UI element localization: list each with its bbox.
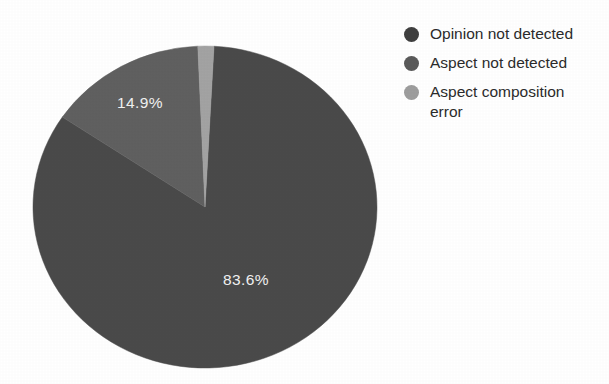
legend-item-opinion-not-detected[interactable]: Opinion not detected — [404, 24, 604, 44]
pie-slices-group — [33, 46, 377, 368]
pie-plot-area: 83.6%14.9% — [0, 0, 400, 384]
legend-item-label: Aspect composition error — [430, 82, 590, 122]
pie-slice-value-label: 83.6% — [223, 271, 269, 288]
legend-item-label: Opinion not detected — [430, 24, 573, 44]
legend-item-aspect-not-detected[interactable]: Aspect not detected — [404, 53, 604, 73]
legend-item-label: Aspect not detected — [430, 53, 567, 73]
legend-color-swatch-icon — [404, 56, 419, 71]
legend-color-swatch-icon — [404, 27, 419, 42]
pie-chart-figure: 83.6%14.9% Opinion not detected Aspect n… — [0, 0, 609, 384]
legend-item-aspect-composition-error[interactable]: Aspect composition error — [404, 82, 604, 122]
pie-svg: 83.6%14.9% — [0, 0, 400, 384]
legend-color-swatch-icon — [404, 85, 419, 100]
chart-legend: Opinion not detected Aspect not detected… — [404, 24, 604, 131]
pie-slice-value-label: 14.9% — [117, 94, 163, 111]
